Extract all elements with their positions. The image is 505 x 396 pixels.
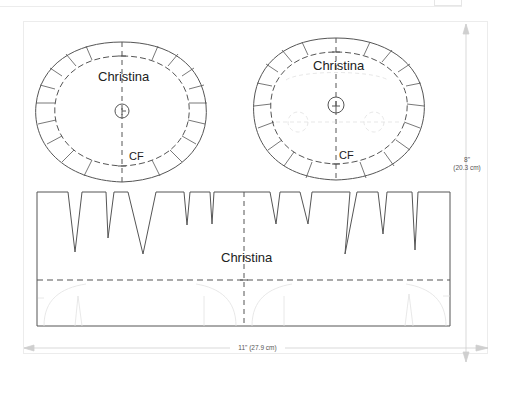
right-oval-name: Christina <box>313 58 364 73</box>
width-dimension-label: 11" (27.9 cm) <box>230 344 285 352</box>
height-cm: (20.3 cm) <box>452 164 482 172</box>
height-inches: 8" <box>452 156 482 164</box>
band-name: Christina <box>221 250 272 265</box>
left-oval-cf-marker: CF <box>129 150 144 162</box>
template-drawing <box>0 0 505 396</box>
left-oval-name: Christina <box>98 69 149 84</box>
height-dimension-label: 8" (20.3 cm) <box>452 156 482 172</box>
left-oval-piece <box>36 42 207 182</box>
right-oval-cf-marker: CF <box>339 149 354 161</box>
